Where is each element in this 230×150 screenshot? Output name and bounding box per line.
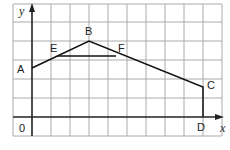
coordinate-diagram: y x 0 A B C D E F (0, 0, 230, 150)
point-label-c: C (207, 79, 215, 91)
point-label-e: E (50, 42, 57, 54)
point-label-b: B (85, 25, 92, 37)
axes (13, 8, 218, 136)
x-axis-label: x (219, 121, 226, 135)
y-axis-label: y (18, 4, 25, 18)
point-label-d: D (197, 121, 205, 133)
x-axis-arrow-icon (215, 114, 224, 120)
origin-label: 0 (19, 122, 25, 134)
point-label-a: A (17, 63, 25, 75)
point-label-f: F (118, 42, 125, 54)
